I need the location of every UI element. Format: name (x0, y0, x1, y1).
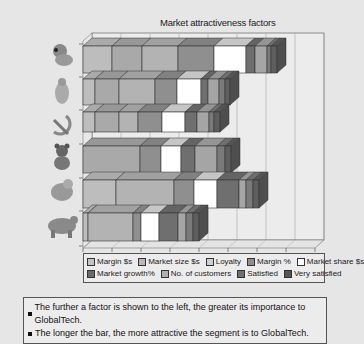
legend-swatch-icon (247, 258, 255, 266)
legend-label: Market size $s (148, 256, 200, 268)
koala-icon (46, 176, 78, 204)
legend-label: Market share $s (307, 256, 364, 268)
bullet-icon (28, 312, 32, 316)
legend-swatch-icon (237, 270, 245, 278)
bullet-icon (28, 332, 32, 336)
legend-item: No. of customers (161, 268, 231, 280)
legend-label: Loyalty (216, 256, 241, 268)
note-item: The longer the bar, the more attractive … (28, 327, 322, 340)
chart-legend: Margin $sMarket size $sLoyaltyMargin %Ma… (83, 253, 325, 283)
legend-swatch-icon (297, 258, 305, 266)
legend-item: Satisfied (237, 268, 278, 280)
legend-swatch-icon (161, 270, 169, 278)
note-text: The longer the bar, the more attractive … (35, 327, 309, 340)
legend-swatch-icon (87, 270, 95, 278)
legend-item: Market growth% (87, 268, 155, 280)
legend-item: Market size $s (138, 256, 200, 268)
legend-item: Market share $s (297, 256, 364, 268)
legend-label: Market growth% (97, 268, 155, 280)
panda-icon (46, 42, 78, 70)
hammer-sickle-icon (46, 110, 78, 138)
brown-bear-icon (46, 210, 78, 238)
legend-label: Satisfied (247, 268, 278, 280)
legend-item: Very satisfied (284, 268, 342, 280)
legend-swatch-icon (284, 270, 292, 278)
note-text: The further a factor is shown to the lef… (35, 301, 322, 327)
legend-row: Margin $sMarket size $sLoyaltyMargin %Ma… (87, 256, 321, 268)
note-item: The further a factor is shown to the lef… (28, 301, 322, 327)
legend-item: Loyalty (206, 256, 241, 268)
legend-swatch-icon (206, 258, 214, 266)
legend-item: Margin $s (87, 256, 132, 268)
legend-swatch-icon (87, 258, 95, 266)
legend-label: Very satisfied (294, 268, 342, 280)
legend-row: Market growth%No. of customersSatisfiedV… (87, 268, 321, 280)
legend-label: No. of customers (171, 268, 231, 280)
legend-item: Margin % (247, 256, 291, 268)
teddy-bear-icon (46, 143, 78, 171)
legend-label: Margin % (257, 256, 291, 268)
legend-swatch-icon (138, 258, 146, 266)
polar-bear-icon (46, 77, 78, 105)
legend-label: Margin $s (97, 256, 132, 268)
notes-box: The further a factor is shown to the lef… (23, 297, 327, 344)
